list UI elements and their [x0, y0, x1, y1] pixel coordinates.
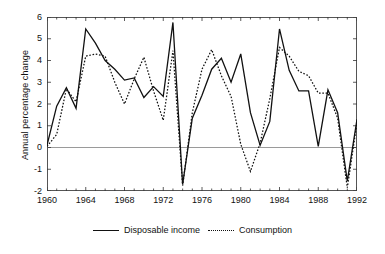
x-tick-label: 1992	[337, 196, 377, 205]
y-tick-label: 6	[20, 13, 42, 22]
y-tick-label: 5	[20, 34, 42, 43]
x-tick-label: 1984	[260, 196, 300, 205]
series-canvas	[47, 17, 357, 191]
x-tick-label: 1968	[105, 196, 145, 205]
chart-figure: Annual percentage change 6543210-1-2 196…	[0, 0, 385, 254]
y-tick-label: 4	[20, 56, 42, 65]
x-tick-label: 1964	[66, 196, 106, 205]
x-tick-label: 1976	[182, 196, 222, 205]
series-line-consumption	[47, 47, 357, 187]
y-tick-label: 0	[20, 143, 42, 152]
y-tick-label: 1	[20, 121, 42, 130]
legend-item: Disposable income	[93, 225, 200, 235]
legend-label: Consumption	[239, 225, 292, 235]
legend-swatch-solid-icon	[93, 230, 119, 231]
legend-swatch-dotted-icon	[208, 230, 234, 231]
x-tick-label: 1988	[298, 196, 338, 205]
x-tick-label: 1980	[221, 196, 261, 205]
legend-label: Disposable income	[124, 225, 200, 235]
plot-area	[47, 17, 357, 191]
y-tick-label: 3	[20, 78, 42, 87]
y-tick-label: -1	[20, 165, 42, 174]
x-tick-label: 1960	[27, 196, 67, 205]
x-tick-label: 1972	[143, 196, 183, 205]
y-tick-label: 2	[20, 100, 42, 109]
legend-item: Consumption	[208, 225, 292, 235]
series-line-disposable-income	[47, 22, 357, 184]
chart-legend: Disposable incomeConsumption	[0, 225, 385, 235]
